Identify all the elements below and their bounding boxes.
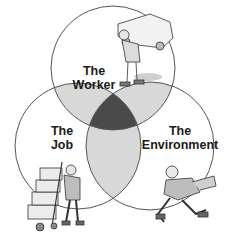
label-worker-line2: Worker	[66, 78, 122, 92]
label-worker-line1: The	[66, 64, 122, 78]
label-the-worker: The Worker	[66, 64, 122, 92]
label-job-line1: The	[44, 124, 80, 138]
label-environment-line1: The	[138, 124, 222, 138]
hand-truck-worker-icon	[28, 162, 84, 231]
label-the-environment: The Environment	[138, 124, 222, 152]
worker-carrying-car-icon	[118, 14, 173, 86]
label-the-job: The Job	[44, 124, 80, 152]
venn-diagram: The Worker The Job The Environment	[0, 0, 234, 240]
label-environment-line2: Environment	[138, 138, 222, 152]
venn-graphic	[0, 0, 234, 240]
label-job-line2: Job	[44, 138, 80, 152]
